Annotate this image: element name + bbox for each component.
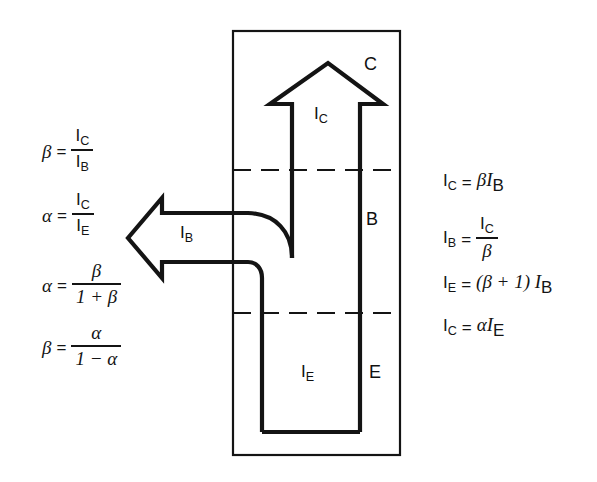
numerator-subscript: C: [81, 198, 90, 212]
equation-relation: =: [53, 339, 71, 356]
base-letter: B: [366, 209, 378, 229]
equation-ie-equals-beta-plus-one-ib: IE=(β + 1) IB: [443, 272, 552, 296]
fraction: ICβ: [476, 215, 498, 262]
denominator-subscript: E: [81, 224, 89, 238]
equation-ib-equals-ic-over-beta: IB=ICβ: [443, 216, 498, 263]
equation-rhs: (β + 1) IB: [476, 272, 552, 296]
transistor-current-figure: C B E IC IB IE β=ICIB α=ICIE α=β1 + β β=…: [0, 0, 597, 482]
collector-current-label: IC: [314, 105, 328, 125]
fraction-denominator: 1 − α: [71, 347, 121, 370]
equation-ic-equals-alpha-ie: IC=αIE: [443, 315, 504, 339]
equation-relation: =: [458, 276, 476, 293]
equation-beta-ic-over-ib: β=ICIB: [42, 128, 93, 176]
fraction-denominator: IE: [72, 215, 94, 238]
equation-beta-alpha-over-one-minus-alpha: β=α1 − α: [42, 324, 121, 370]
base-current-subscript: B: [185, 231, 193, 245]
equation-relation: =: [459, 319, 477, 336]
denominator-subscript: B: [80, 160, 88, 174]
equation-rhs: βIB: [477, 170, 504, 194]
rhs-symbol: (β + 1) I: [476, 271, 541, 292]
equation-ic-equals-beta-ib: IC=βIB: [443, 170, 504, 194]
fraction-numerator: IC: [71, 127, 93, 151]
rhs-subscript: E: [493, 321, 504, 340]
fraction: β1 + β: [72, 261, 121, 307]
collector-region-label: C: [364, 55, 377, 73]
equation-lhs: α: [42, 276, 54, 295]
fraction: ICIE: [72, 191, 94, 239]
fraction-numerator: β: [72, 261, 121, 285]
emitter-letter: E: [369, 362, 381, 382]
equation-alpha-ic-over-ie: α=ICIE: [42, 192, 94, 240]
equation-relation: =: [53, 143, 71, 160]
equation-relation: =: [458, 231, 476, 248]
fraction: α1 − α: [71, 323, 121, 369]
rhs-symbol: αI: [477, 314, 493, 335]
equation-rhs: αIE: [477, 315, 505, 339]
equation-lhs: β: [42, 338, 53, 357]
collector-current-subscript: C: [319, 112, 328, 126]
device-body-outline: [233, 31, 400, 455]
fraction-numerator: IC: [476, 215, 498, 239]
numerator-subscript: C: [80, 134, 89, 148]
rhs-subscript: B: [493, 176, 504, 195]
fraction-denominator: 1 + β: [72, 285, 121, 308]
equation-lhs: IC: [443, 317, 459, 337]
equation-lhs: IC: [443, 172, 459, 192]
numerator-subscript: C: [485, 222, 494, 236]
lhs-subscript: E: [448, 281, 456, 295]
equation-relation: =: [54, 277, 72, 294]
equation-lhs: α: [42, 206, 54, 225]
fraction-denominator: β: [476, 239, 498, 262]
equation-lhs: β: [42, 142, 53, 161]
fraction-numerator: IC: [72, 191, 94, 215]
rhs-subscript: B: [541, 278, 552, 297]
equation-lhs: IB: [443, 229, 458, 249]
rhs-symbol: βI: [477, 169, 493, 190]
equation-relation: =: [459, 174, 477, 191]
emitter-region-label: E: [369, 363, 381, 381]
emitter-current-label: IE: [301, 363, 314, 383]
equation-alpha-beta-over-one-plus-beta: α=β1 + β: [42, 262, 121, 308]
collector-letter: C: [364, 54, 377, 74]
fraction-numerator: α: [71, 323, 121, 347]
fraction: ICIB: [71, 127, 93, 175]
fraction-denominator: IB: [71, 151, 93, 174]
base-region-label: B: [366, 210, 378, 228]
base-current-arrow: [128, 198, 292, 432]
transistor-diagram: [0, 0, 597, 482]
emitter-current-subscript: E: [306, 370, 314, 384]
equation-relation: =: [54, 207, 72, 224]
equation-lhs: IE: [443, 274, 458, 294]
lhs-subscript: C: [448, 324, 457, 338]
base-current-label: IB: [180, 224, 193, 244]
lhs-subscript: B: [448, 236, 456, 250]
lhs-subscript: C: [448, 179, 457, 193]
